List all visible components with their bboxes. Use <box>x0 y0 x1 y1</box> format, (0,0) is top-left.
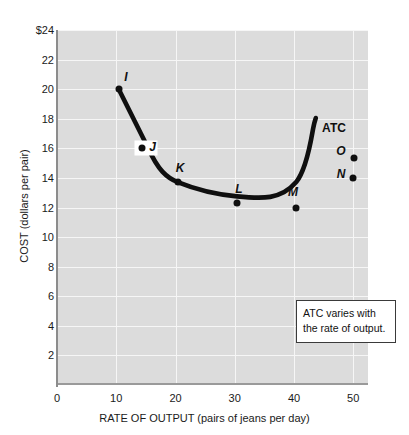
data-point-J <box>138 144 145 151</box>
data-point-label-M: M <box>288 185 298 199</box>
data-point-I <box>115 85 122 92</box>
callout-box: ATC varies with the rate of output. <box>296 300 396 343</box>
x-tick-50: 50 <box>347 392 359 404</box>
y-tick-4: 4 <box>48 320 54 332</box>
gridline-y-12 <box>57 208 368 209</box>
y-axis-title: COST (dollars per pair) <box>18 96 30 316</box>
y-tick-14: 14 <box>42 172 54 184</box>
x-tick-0: 0 <box>54 392 60 404</box>
data-point-O <box>351 155 358 162</box>
gridline-y-24 <box>57 30 368 31</box>
data-point-label-O: O <box>336 144 345 158</box>
gridline-y-18 <box>57 119 368 120</box>
y-tick-20: 20 <box>42 83 54 95</box>
data-point-label-J: J <box>149 140 156 154</box>
data-point-M <box>293 204 300 211</box>
x-tick-10: 10 <box>110 392 122 404</box>
series-label-atc: ATC <box>322 121 346 135</box>
gridline-x-10 <box>116 30 117 383</box>
gridline-y-8 <box>57 267 368 268</box>
y-axis-line <box>56 30 58 387</box>
x-tick-20: 20 <box>169 392 181 404</box>
y-tick-12: 12 <box>42 202 54 214</box>
data-point-L <box>234 200 241 207</box>
data-point-K <box>174 179 181 186</box>
gridline-y-14 <box>57 178 368 179</box>
gridline-y-6 <box>57 296 368 297</box>
x-tick-30: 30 <box>229 392 241 404</box>
y-tick-2: 2 <box>48 349 54 361</box>
data-point-label-K: K <box>176 161 185 175</box>
data-point-label-L: L <box>235 182 242 196</box>
y-tick-24: $24 <box>36 24 54 36</box>
x-axis-title: RATE OF OUTPUT (pairs of jeans per day) <box>0 412 409 424</box>
y-tick-18: 18 <box>42 113 54 125</box>
gridline-y-20 <box>57 89 368 90</box>
y-tick-8: 8 <box>48 261 54 273</box>
gridline-y-22 <box>57 60 368 61</box>
callout-line-2: the rate of output. <box>303 321 389 336</box>
x-tick-40: 40 <box>288 392 300 404</box>
data-point-label-I: I <box>124 70 127 84</box>
gridline-x-20 <box>176 30 177 383</box>
y-tick-22: 22 <box>42 54 54 66</box>
gridline-y-2 <box>57 355 368 356</box>
callout-line-1: ATC varies with <box>303 306 389 321</box>
data-point-N <box>350 174 357 181</box>
gridline-x-30 <box>235 30 236 383</box>
gridline-y-10 <box>57 237 368 238</box>
data-point-label-N: N <box>337 167 346 181</box>
cost-curve-figure: $24 22 20 18 16 14 12 10 8 6 4 2 0 10 20… <box>0 0 409 435</box>
y-tick-6: 6 <box>48 290 54 302</box>
y-tick-10: 10 <box>42 231 54 243</box>
gridline-y-16 <box>57 148 368 149</box>
y-tick-16: 16 <box>42 142 54 154</box>
